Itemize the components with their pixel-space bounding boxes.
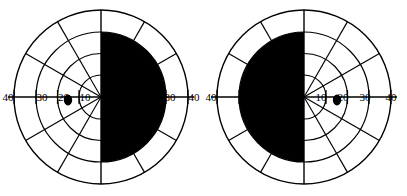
left-tick-label-20-west: 20 <box>58 91 70 103</box>
left-tick-label-40-east: 40 <box>189 91 201 103</box>
right-polar-svg: 40 30 10 20 30 40 <box>203 0 406 196</box>
right-tick-label-40-west: 40 <box>206 91 218 103</box>
left-tick-label-10-west: 10 <box>80 91 92 103</box>
right-tick-label-10-east: 10 <box>316 91 328 103</box>
left-polar-diagram-panel: 40 30 20 10 30 40 <box>0 0 203 196</box>
right-tick-label-20-east: 20 <box>338 91 350 103</box>
right-tick-label-30-east: 30 <box>360 91 372 103</box>
polar-diagram-figure: 40 30 20 10 30 40 <box>0 0 407 196</box>
left-tick-label-30-east: 30 <box>165 91 177 103</box>
right-polar-diagram-panel: 40 30 10 20 30 40 <box>203 0 406 196</box>
right-tick-label-30-west: 30 <box>240 91 252 103</box>
right-tick-label-40-east: 40 <box>386 91 398 103</box>
left-tick-label-30-west: 30 <box>37 91 49 103</box>
left-polar-svg: 40 30 20 10 30 40 <box>0 0 203 196</box>
left-tick-label-40-west: 40 <box>3 91 15 103</box>
